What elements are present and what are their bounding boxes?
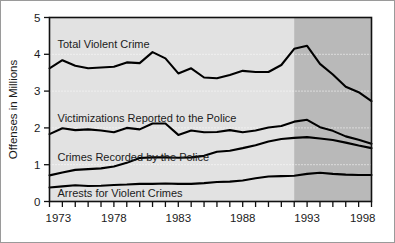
y-tick-label-3: 3 <box>34 85 40 97</box>
chart-figure: 012345 197319781983198819931998 Offenses… <box>0 0 395 243</box>
x-tick-label-1993: 1993 <box>294 212 320 224</box>
y-tick-label-2: 2 <box>34 122 40 134</box>
series-label-1: Victimizations Reported to the Police <box>58 112 237 124</box>
y-axis-ticks: 012345 <box>34 12 49 208</box>
series-label-2: Crimes Recorded by the Police <box>58 151 210 163</box>
y-tick-label-1: 1 <box>34 159 40 171</box>
y-tick-label-5: 5 <box>34 12 40 24</box>
violent-crime-line-chart: 012345 197319781983198819931998 Offenses… <box>1 1 395 243</box>
y-axis-title-text: Offenses in Millions <box>7 60 19 160</box>
x-tick-label-1988: 1988 <box>230 212 256 224</box>
y-tick-label-4: 4 <box>34 48 41 60</box>
x-axis-ticks: 197319781983198819931998 <box>46 202 376 224</box>
x-tick-label-1973: 1973 <box>46 212 72 224</box>
series-label-3: Arrests for Violent Crimes <box>58 187 184 199</box>
x-tick-label-1998: 1998 <box>350 212 376 224</box>
series-label-0: Total Violent Crime <box>58 38 150 50</box>
x-tick-label-1978: 1978 <box>101 212 127 224</box>
x-tick-label-1983: 1983 <box>166 212 192 224</box>
y-axis-title: Offenses in Millions <box>7 60 19 160</box>
y-tick-label-0: 0 <box>34 196 40 208</box>
